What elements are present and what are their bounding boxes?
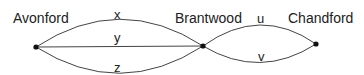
edge-label-y: y	[114, 31, 121, 44]
edge-y	[36, 46, 203, 47]
node-brantwood	[200, 43, 205, 48]
edge-label-u: u	[257, 12, 264, 25]
node-avonford	[33, 44, 38, 49]
node-label-chandford: Chandford	[288, 11, 353, 25]
edge-u	[203, 25, 316, 46]
edge-label-z: z	[114, 61, 121, 74]
node-label-brantwood: Brantwood	[175, 11, 242, 25]
edge-label-x: x	[114, 8, 121, 21]
node-label-avonford: Avonford	[13, 11, 69, 25]
node-chandford	[313, 41, 318, 46]
edge-label-v: v	[258, 50, 265, 63]
